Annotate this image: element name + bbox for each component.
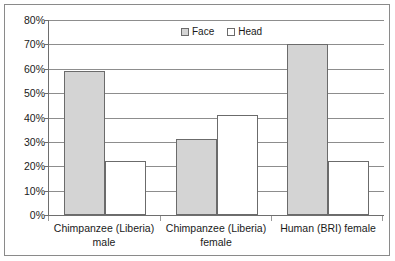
bar-head-1 xyxy=(217,115,258,215)
y-tick-mark xyxy=(44,166,49,167)
x-category-line2: female xyxy=(162,235,270,249)
y-tick-label: 60% xyxy=(9,64,45,75)
bar-face-0 xyxy=(64,71,105,215)
gridline xyxy=(49,69,384,70)
gridline xyxy=(49,20,384,21)
face-swatch-icon xyxy=(181,28,189,36)
y-tick-mark xyxy=(44,191,49,192)
x-axis-labels: Chimpanzee (Liberia)maleChimpanzee (Libe… xyxy=(48,221,384,261)
y-tick-mark xyxy=(44,20,49,21)
y-tick-mark xyxy=(44,44,49,45)
y-tick-label: 30% xyxy=(9,137,45,148)
legend-item-face[interactable]: Face xyxy=(181,27,214,37)
y-axis: 80%70%60%50%40%30%20%10%0% xyxy=(5,20,45,216)
head-swatch-icon xyxy=(227,28,235,36)
x-category-label-0: Chimpanzee (Liberia)male xyxy=(48,221,160,261)
x-category-line1: Chimpanzee (Liberia) xyxy=(166,222,266,234)
chart-legend: FaceHead xyxy=(181,27,262,37)
x-category-label-2: Human (BRI) female xyxy=(272,221,384,261)
bar-head-2 xyxy=(328,161,369,215)
legend-label: Face xyxy=(192,27,214,37)
legend-item-head[interactable]: Head xyxy=(227,27,262,37)
y-tick-mark xyxy=(44,93,49,94)
bar-face-1 xyxy=(176,139,217,215)
y-tick-mark xyxy=(44,69,49,70)
y-tick-mark xyxy=(44,118,49,119)
legend-label: Head xyxy=(238,27,262,37)
y-tick-label: 20% xyxy=(9,161,45,172)
bar-face-2 xyxy=(287,44,328,215)
y-tick-label: 50% xyxy=(9,88,45,99)
chart-frame: 80%70%60%50%40%30%20%10%0% Chimpanzee (L… xyxy=(4,4,390,256)
x-category-line1: Chimpanzee (Liberia) xyxy=(54,222,154,234)
y-tick-label: 10% xyxy=(9,186,45,197)
y-tick-label: 80% xyxy=(9,15,45,26)
x-category-label-1: Chimpanzee (Liberia)female xyxy=(160,221,272,261)
bar-head-0 xyxy=(105,161,146,215)
plot-area xyxy=(48,20,384,216)
y-tick-mark xyxy=(44,142,49,143)
y-tick-label: 70% xyxy=(9,39,45,50)
x-category-line2: male xyxy=(50,235,158,249)
gridline xyxy=(49,44,384,45)
y-tick-label: 40% xyxy=(9,113,45,124)
x-category-line1: Human (BRI) female xyxy=(280,222,376,234)
y-tick-label: 0% xyxy=(9,210,45,221)
